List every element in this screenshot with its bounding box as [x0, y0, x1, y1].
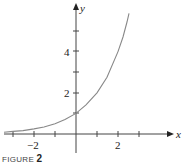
y-axis-arrow-icon: [73, 3, 79, 10]
x-axis-label: x: [175, 128, 181, 140]
figure-caption-prefix: FIGURE: [2, 155, 34, 164]
x-tick-label-neg2: −2: [27, 139, 39, 151]
y-axis-label: y: [79, 2, 85, 14]
exponential-graph: y x −2 2 2 4: [0, 0, 182, 164]
figure-caption-number: 2: [37, 153, 43, 164]
y-tick-label-4: 4: [64, 46, 70, 58]
exponential-curve: [4, 13, 129, 132]
y-tick-label-2: 2: [64, 87, 70, 99]
x-axis-arrow-icon: [167, 131, 174, 137]
x-tick-label-2: 2: [115, 139, 121, 151]
figure-caption: FIGURE 2: [2, 153, 42, 164]
